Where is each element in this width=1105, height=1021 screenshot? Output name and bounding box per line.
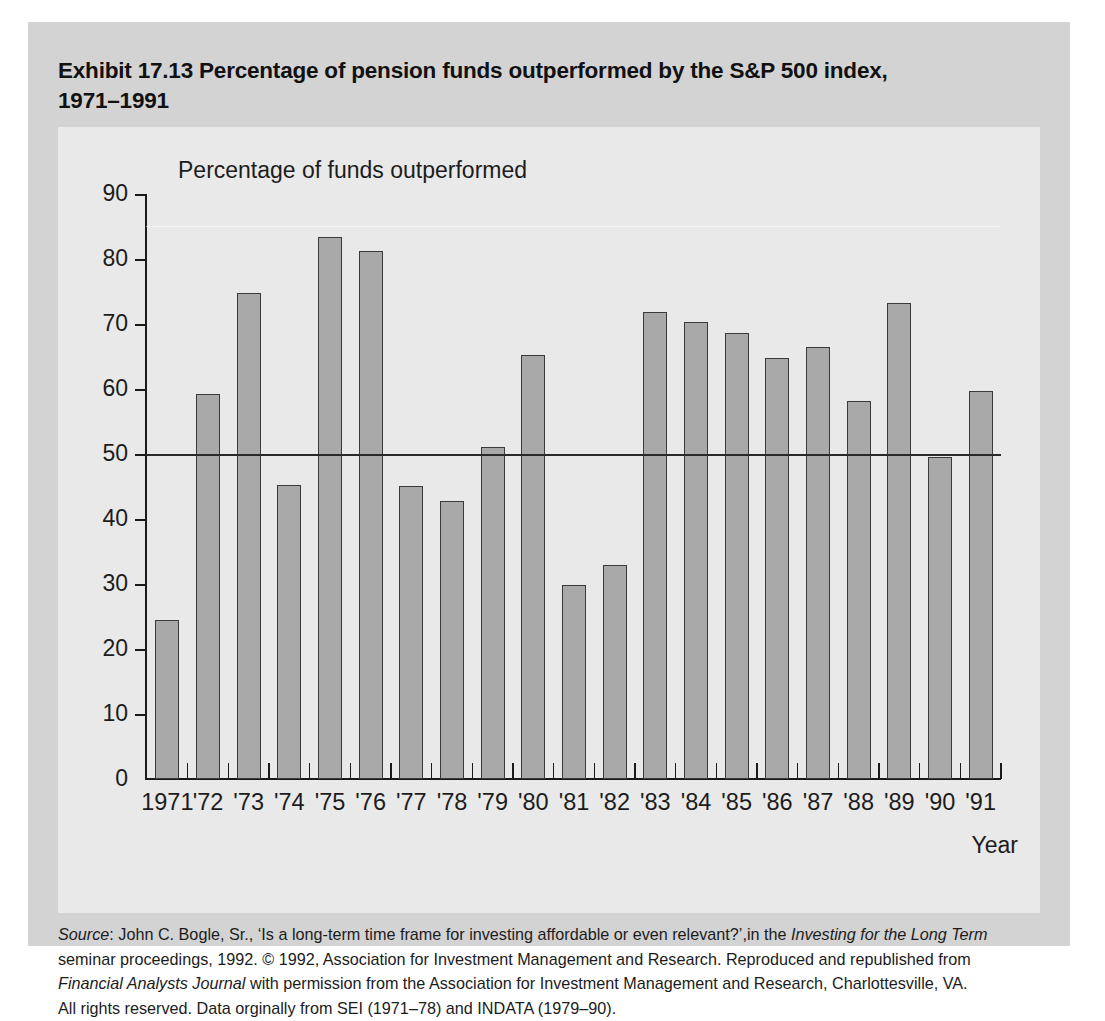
y-tick-label: 50: [82, 442, 128, 465]
x-tick-label: '89: [884, 789, 915, 816]
source-line-3: Financial Analysts Journal with permissi…: [58, 971, 1048, 996]
x-tick-mark: [472, 763, 474, 779]
x-tick-label: '75: [315, 789, 346, 816]
x-tick-label: '81: [559, 789, 590, 816]
source-line-4: All rights reserved. Data orginally from…: [58, 996, 1048, 1021]
x-tick-mark: [187, 763, 189, 779]
x-tick-mark: [797, 763, 799, 779]
exhibit-panel: Exhibit 17.13 Percentage of pension fund…: [28, 22, 1070, 946]
x-tick-mark: [919, 763, 921, 779]
x-tick-label: '73: [233, 789, 264, 816]
x-tick-mark: [756, 763, 758, 779]
y-tick-label: 80: [82, 247, 128, 270]
source-line-2: seminar proceedings, 1992. © 1992, Assoc…: [58, 947, 1048, 972]
x-tick-mark: [838, 763, 840, 779]
x-tick-mark: [512, 763, 514, 779]
x-tick-label: '91: [965, 789, 996, 816]
x-tick-label: '85: [721, 789, 752, 816]
y-tick-label: 40: [82, 507, 128, 530]
x-tick-label: '80: [518, 789, 549, 816]
x-tick-label: '84: [681, 789, 712, 816]
y-tick-label: 0: [82, 767, 128, 790]
x-tick-mark: [594, 763, 596, 779]
x-tick-mark: [553, 763, 555, 779]
y-tick-label: 70: [82, 312, 128, 335]
x-tick-label: '79: [477, 789, 508, 816]
x-tick-label: '87: [803, 789, 834, 816]
x-tick-label: '83: [640, 789, 671, 816]
x-tick-mark: [268, 763, 270, 779]
source-publication-1: Investing for the Long Term: [791, 925, 987, 943]
source-line-1: Source: John C. Bogle, Sr., ‘Is a long-t…: [58, 922, 1048, 947]
source-publication-2: Financial Analysts Journal: [58, 974, 245, 992]
y-tick-label: 30: [82, 572, 128, 595]
x-tick-label: '72: [193, 789, 224, 816]
source-note: Source: John C. Bogle, Sr., ‘Is a long-t…: [58, 922, 1048, 1021]
x-tick-mark: [309, 763, 311, 779]
x-tick-label: '77: [396, 789, 427, 816]
x-tick-mark: [390, 763, 392, 779]
bar-chart-plot: Percentage of funds outperformed 0102030…: [58, 127, 1040, 913]
x-tick-mark: [431, 763, 433, 779]
x-axis-tick-labels: 1971'72'73'74'75'76'77'78'79'80'81'82'83…: [147, 789, 1001, 829]
source-label: Source: [58, 925, 109, 943]
y-tick-label: 20: [82, 637, 128, 660]
x-tick-label: '78: [437, 789, 468, 816]
x-tick-label: '76: [355, 789, 386, 816]
source-line-3-text: with permission from the Association for…: [245, 974, 967, 992]
x-tick-label: '74: [274, 789, 305, 816]
exhibit-title: Exhibit 17.13 Percentage of pension fund…: [58, 56, 1038, 115]
x-tick-mark: [350, 763, 352, 779]
source-line-1-text: : John C. Bogle, Sr., ‘Is a long-term ti…: [109, 925, 791, 943]
x-tick-mark: [675, 763, 677, 779]
y-tick-label: 10: [82, 702, 128, 725]
exhibit-title-line-2: 1971–1991: [58, 86, 1038, 116]
x-tick-mark: [634, 763, 636, 779]
x-tick-mark: [228, 763, 230, 779]
y-tick-label: 60: [82, 377, 128, 400]
x-tick-label: '90: [925, 789, 956, 816]
x-tick-mark: [1000, 763, 1002, 779]
chart-card: Percentage of funds outperformed 0102030…: [58, 127, 1040, 913]
x-tick-mark: [716, 763, 718, 779]
exhibit-title-line-1: Exhibit 17.13 Percentage of pension fund…: [58, 58, 888, 83]
x-tick-mark: [878, 763, 880, 779]
x-axis-caption: Year: [972, 832, 1018, 859]
x-tick-label: 1971: [141, 789, 193, 816]
y-axis-tick-labels: 0102030405060708090: [58, 127, 128, 913]
y-tick-label: 90: [82, 182, 128, 205]
x-tick-label: '82: [599, 789, 630, 816]
x-tick-mark: [960, 763, 962, 779]
x-tick-label: '86: [762, 789, 793, 816]
x-tick-label: '88: [843, 789, 874, 816]
